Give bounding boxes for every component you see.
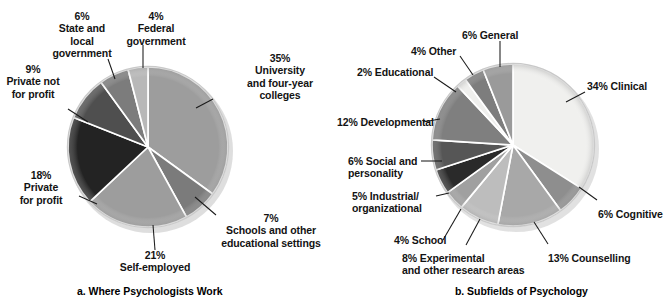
pie-chart-where-psychologists-work	[67, 66, 228, 227]
pie-edge-shading	[68, 67, 228, 227]
label-clinical: 34% Clinical	[587, 80, 667, 92]
label-industrial-organizational: 5% Industrial/ organizational	[352, 190, 446, 215]
label-developmental: 12% Developmental	[337, 116, 437, 128]
leader-educational	[434, 77, 456, 92]
label-federal-government: 4% Federal government	[110, 10, 202, 47]
leader-experimental	[466, 219, 480, 245]
caption-subfields-of-psychology: b. Subfields of Psychology	[455, 285, 588, 297]
label-counselling: 13% Counselling	[548, 252, 658, 264]
leader-other	[460, 56, 473, 75]
label-general: 6% General	[462, 29, 572, 41]
label-cognitive: 6% Cognitive	[598, 208, 668, 220]
label-educational: 2% Educational	[357, 66, 449, 78]
label-school: 4% School	[394, 234, 464, 246]
label-university-and-four-year-colleges: 35% University and four-year colleges	[226, 52, 334, 101]
label-social-and-personality: 6% Social and personality	[348, 155, 440, 180]
label-other: 4% Other	[411, 45, 481, 57]
label-self-employed: 21% Self-employed	[100, 249, 210, 274]
label-experimental-and-other-research-areas: 8% Experimental and other research areas	[402, 252, 552, 277]
pie-chart-subfields-of-psychology	[431, 63, 594, 226]
figure-two-pie-charts: 6% State and local government 4% Federal…	[0, 0, 668, 306]
pie-edge-shading	[432, 64, 594, 226]
caption-where-psychologists-work: a. Where Psychologists Work	[77, 285, 223, 297]
label-schools-and-other-educational-settings: 7% Schools and other educational setting…	[207, 212, 335, 249]
label-private-not-for-profit: 9% Private not for profit	[0, 63, 68, 100]
label-private-for-profit: 18% Private for profit	[5, 169, 77, 206]
